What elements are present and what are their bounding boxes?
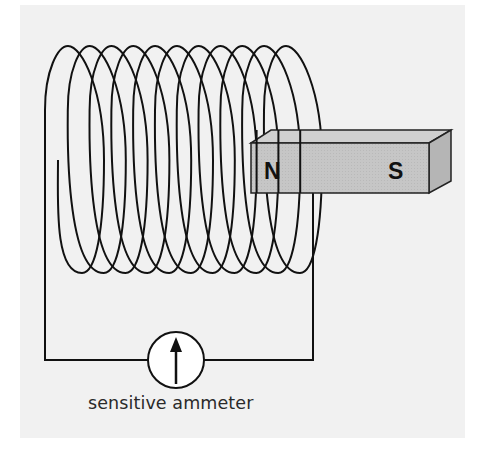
ammeter	[148, 332, 204, 388]
bar-magnet: N S	[251, 130, 451, 193]
ammeter-caption: sensitive ammeter	[88, 393, 253, 413]
coil-turn	[68, 46, 126, 273]
south-pole-label: S	[388, 158, 403, 184]
coil-turn	[45, 46, 104, 273]
electromagnetic-induction-diagram: N S	[0, 0, 479, 451]
magnet-top-face	[251, 130, 451, 143]
